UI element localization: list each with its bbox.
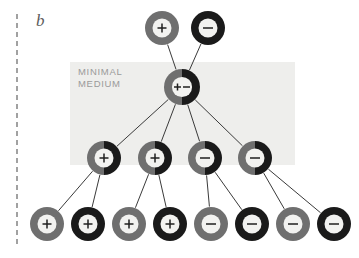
panel-label-b: b [36,11,45,31]
lineage-edge [264,173,285,209]
figure-panel-b: b MINIMAL MEDIUM [0,0,359,258]
cell-node-t1 [145,11,179,45]
cell-node-b7 [276,207,310,241]
lineage-edge [207,175,210,206]
minimal-medium-label: MINIMAL MEDIUM [78,66,123,90]
cell-node-b8 [317,207,351,241]
cell-node-c1 [164,69,200,105]
cell-node-b3 [112,207,146,241]
cell-node-b4 [153,207,187,241]
cell-node-m3 [188,141,222,175]
lineage-edge [215,172,242,209]
cell-node-b6 [235,207,269,241]
cell-node-m4 [238,141,272,175]
lineage-edge [58,171,92,211]
cell-node-m1 [87,141,121,175]
cell-lineage-diagram [0,0,359,258]
lineage-edge [268,169,320,213]
cell-node-t2 [191,11,225,45]
cell-node-b2 [71,207,105,241]
cell-node-m2 [138,141,172,175]
lineage-edge [159,175,166,207]
cell-node-b5 [194,207,228,241]
lineage-edge [135,174,148,207]
lineage-edge [92,175,100,207]
cell-node-b1 [30,207,64,241]
